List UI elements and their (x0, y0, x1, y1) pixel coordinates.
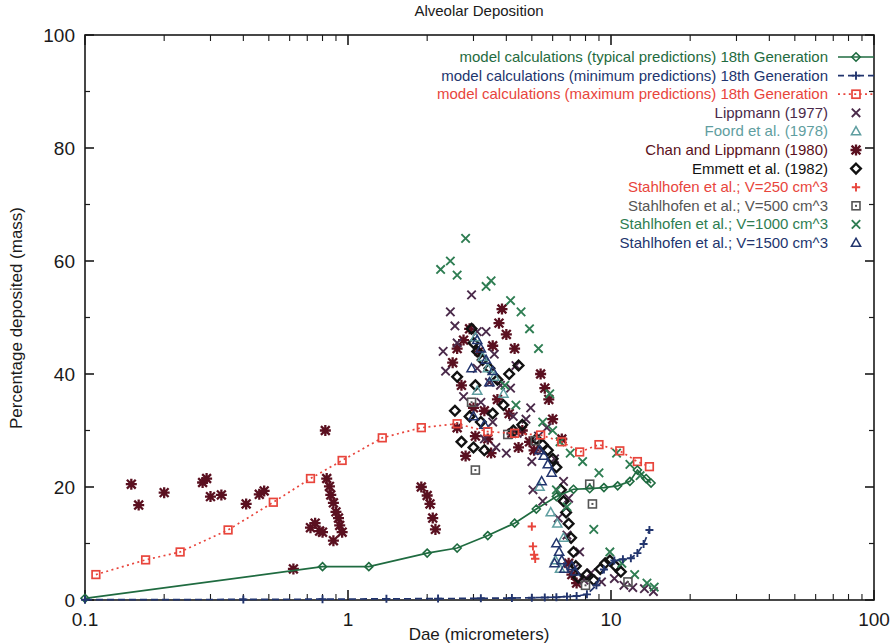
data-point-star (850, 144, 861, 155)
data-point-cross (517, 308, 525, 316)
data-point-plus (319, 595, 327, 603)
data-point-square-dot (627, 581, 629, 583)
data-point-square-open (270, 498, 278, 506)
data-point-cross (506, 296, 514, 304)
data-point-star (452, 343, 463, 354)
data-point-diamond-filled-open (504, 369, 514, 379)
y-tick-label: 20 (54, 477, 75, 498)
legend-entry-minimum[interactable]: model calculations (minimum predictions)… (441, 67, 874, 84)
data-point-cross (852, 220, 860, 228)
data-point-square-dot (471, 401, 473, 403)
data-point-star (430, 524, 441, 535)
data-point-cross (490, 350, 498, 358)
legend-label: model calculations (maximum predictions)… (437, 85, 828, 102)
data-point-plus (434, 595, 442, 603)
data-point-square-open (634, 458, 642, 466)
data-point-star (547, 414, 558, 425)
data-point-cross (441, 367, 449, 375)
data-point-cross (528, 457, 536, 465)
data-layer (81, 234, 658, 604)
data-point-plus (573, 592, 581, 600)
data-point-square-dot (474, 469, 476, 471)
x-tick-label: 1 (343, 609, 354, 630)
data-point-plus (531, 555, 539, 563)
legend-key-marker (850, 144, 861, 155)
legend-entry-maximum[interactable]: model calculations (maximum predictions)… (437, 85, 874, 102)
data-point-cross (487, 277, 495, 285)
legend-label: Emmett et al. (1982) (692, 160, 828, 177)
y-tick-label: 100 (43, 25, 75, 46)
y-tick-label: 0 (64, 590, 75, 611)
data-point-plus (528, 522, 536, 530)
legend-label: Stahlhofen et al.; V=1500 cm^3 (620, 234, 828, 251)
legend-entry-foord[interactable]: Foord et al. (1978) (705, 122, 861, 139)
data-point-diamond-filled-open (564, 519, 574, 529)
data-point-star (460, 450, 471, 461)
legend-entry-lippmann[interactable]: Lippmann (1977) (715, 104, 861, 121)
x-axis-label: Dae (micrometers) (409, 625, 550, 643)
legend-entry-stahlhofen1500[interactable]: Stahlhofen et al.; V=1500 cm^3 (620, 234, 861, 251)
data-point-triangle (537, 477, 546, 485)
data-point-star (509, 343, 520, 354)
data-point-cross (436, 265, 444, 273)
data-point-square-dot (534, 440, 536, 442)
data-point-star (205, 491, 216, 502)
legend-label: Lippmann (1977) (715, 104, 828, 121)
data-point-star (447, 357, 458, 368)
data-point-cross (512, 401, 520, 409)
data-point-cross (459, 392, 467, 400)
data-point-square-dot (591, 503, 593, 505)
legend-entry-stahlhofen500[interactable]: Stahlhofen et al.; V=500 cm^3 (628, 197, 860, 214)
legend-key-marker (852, 109, 860, 117)
legend-label: Stahlhofen et al.; V=1000 cm^3 (620, 215, 828, 232)
data-point-star (288, 563, 299, 574)
data-point-cross (539, 418, 547, 426)
data-point-square-dot (855, 205, 857, 207)
data-point-cross (595, 469, 603, 477)
data-point-star (487, 340, 498, 351)
data-point-star (337, 527, 348, 538)
data-point-star (216, 489, 227, 500)
data-point-cross (566, 449, 574, 457)
legend-entry-stahlhofen250[interactable]: Stahlhofen et al.; V=250 cm^3 (628, 178, 860, 195)
data-point-plus (508, 594, 516, 602)
data-point-triangle (499, 389, 508, 397)
x-tick-label: 10 (600, 609, 621, 630)
data-point-cross (526, 404, 534, 412)
data-point-cross (492, 443, 500, 451)
chart-title: Alveolar Deposition (414, 2, 543, 19)
data-point-cross (629, 583, 637, 591)
data-point-star (496, 304, 507, 315)
legend-label: Foord et al. (1978) (705, 122, 828, 139)
data-point-plus (477, 594, 485, 602)
chart-root: Alveolar Deposition 0204060801000.111010… (0, 0, 893, 643)
data-point-star (241, 498, 252, 509)
data-point-diamond-filled-open (851, 164, 861, 174)
data-point-star (424, 498, 435, 509)
legend-entry-chan[interactable]: Chan and Lippmann (1980) (645, 141, 861, 158)
data-point-cross (534, 344, 542, 352)
legend-entry-stahlhofen1000[interactable]: Stahlhofen et al.; V=1000 cm^3 (620, 215, 861, 232)
series-stahlhofen250 (528, 522, 540, 563)
data-point-star (133, 500, 144, 511)
data-point-cross (610, 574, 618, 582)
data-point-star (159, 487, 170, 498)
data-point-star (320, 425, 331, 436)
data-point-plus (645, 526, 653, 534)
legend-entry-emmett[interactable]: Emmett et al. (1982) (692, 160, 861, 177)
legend-key-marker (852, 71, 860, 79)
data-point-diamond-filled-open (514, 361, 524, 371)
data-point-triangle (555, 547, 564, 555)
y-tick-label: 40 (54, 364, 75, 385)
data-point-cross (467, 291, 475, 299)
data-point-cross (525, 325, 533, 333)
data-point-star (470, 431, 481, 442)
legend-entry-typical[interactable]: model calculations (typical predictions)… (459, 48, 874, 65)
data-point-cross (453, 271, 461, 279)
data-point-diamond-filled-open (469, 443, 479, 453)
data-point-cross (590, 525, 598, 533)
data-point-star (201, 473, 212, 484)
data-point-cross (477, 398, 485, 406)
data-point-plus (852, 183, 860, 191)
data-point-cross (502, 449, 510, 457)
